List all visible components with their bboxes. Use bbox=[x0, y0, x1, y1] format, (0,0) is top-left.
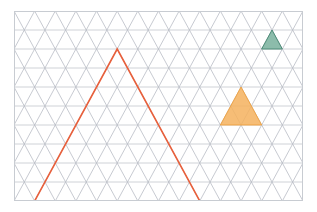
lattice-figure-canvas bbox=[0, 0, 317, 212]
figure-container bbox=[0, 0, 317, 212]
